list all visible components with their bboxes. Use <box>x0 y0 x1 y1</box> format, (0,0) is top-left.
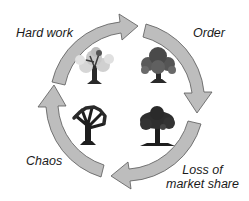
stage-label-loss-of-market-share: Loss of market share <box>166 163 239 191</box>
cycle-diagram: Hard work Order Loss of market share Cha… <box>0 0 249 201</box>
dark-spreading-tree-icon <box>140 106 175 146</box>
stage-label-chaos: Chaos <box>26 154 62 168</box>
bare-dark-tree-icon <box>74 107 105 145</box>
stage-label-order: Order <box>193 26 225 40</box>
stage-label-hard-work: Hard work <box>16 26 73 40</box>
stage-label-loss-line2: market share <box>166 177 239 191</box>
stage-label-loss-line1: Loss of <box>166 163 239 177</box>
